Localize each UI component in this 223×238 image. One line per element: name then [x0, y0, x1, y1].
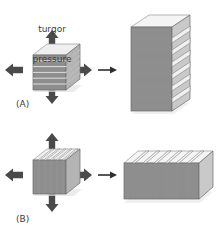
- panel-b-result-slab: [124, 151, 213, 203]
- turgor-pressure-line1: turgor: [22, 24, 82, 34]
- panel-a-label: (A): [16, 99, 29, 109]
- panel-b-source-cube: [33, 149, 82, 196]
- arrow-down-icon: [46, 194, 59, 212]
- arrow-left-icon: [5, 64, 23, 77]
- turgor-pressure-label: turgor pressure: [22, 4, 82, 84]
- panel-b-label: (B): [16, 214, 29, 224]
- transform-arrow-icon: [98, 172, 117, 179]
- transform-arrow-icon: [98, 67, 117, 74]
- arrow-up-icon: [46, 133, 59, 151]
- arrow-left-icon: [5, 169, 23, 182]
- panel-a-result-prism: [131, 15, 190, 114]
- panel-b-group: [5, 133, 213, 212]
- turgor-pressure-figure: turgor pressure (A) (B): [0, 0, 223, 238]
- turgor-pressure-line2: pressure: [22, 54, 82, 64]
